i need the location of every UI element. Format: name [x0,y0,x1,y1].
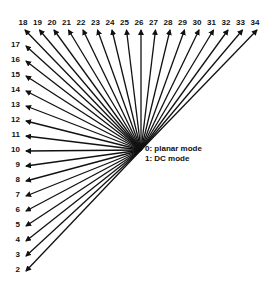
label-mode-25: 25 [120,18,129,27]
arrow-mode-18 [25,30,141,150]
label-mode-19: 19 [33,18,42,27]
label-mode-3: 3 [16,250,21,259]
label-mode-17: 17 [11,40,20,49]
arrow-mode-10 [26,150,141,151]
label-mode-12: 12 [11,115,20,124]
label-mode-30: 30 [193,18,202,27]
label-mode-9: 9 [16,160,21,169]
label-mode-20: 20 [48,18,57,27]
arrow-mode-34 [141,30,257,150]
label-mode-31: 31 [207,18,216,27]
label-mode-10: 10 [11,145,20,154]
arrow-mode-7 [26,150,141,196]
label-mode-22: 22 [77,18,86,27]
legend: 0: planar mode 1: DC mode [145,144,202,164]
label-mode-23: 23 [91,18,100,27]
label-mode-14: 14 [11,85,20,94]
label-mode-27: 27 [149,18,158,27]
arrow-mode-30 [141,30,199,150]
label-mode-24: 24 [106,18,115,27]
angular-modes-diagram: 1819202122232425262728293031323334171615… [0,0,275,288]
arrow-mode-5 [26,150,141,226]
arrow-mode-33 [141,30,243,150]
label-mode-5: 5 [16,220,21,229]
label-mode-6: 6 [16,205,21,214]
label-mode-28: 28 [164,18,173,27]
arrow-mode-16 [26,61,141,150]
label-mode-8: 8 [16,175,21,184]
legend-planar: 0: planar mode [145,144,202,154]
label-mode-18: 18 [19,18,28,27]
label-mode-11: 11 [12,130,21,139]
arrow-mode-32 [141,30,228,150]
arrow-mode-6 [26,150,141,211]
arrow-mode-17 [26,46,141,150]
label-mode-33: 33 [236,18,245,27]
label-mode-4: 4 [16,235,21,244]
label-mode-32: 32 [222,18,231,27]
legend-dc: 1: DC mode [145,154,202,164]
label-mode-34: 34 [251,18,260,27]
arrow-mode-31 [141,30,214,150]
arrow-mode-19 [40,30,142,150]
label-mode-16: 16 [11,55,20,64]
label-mode-2: 2 [16,265,21,274]
label-mode-13: 13 [11,100,20,109]
label-mode-7: 7 [16,190,21,199]
label-mode-29: 29 [178,18,187,27]
label-mode-26: 26 [135,18,144,27]
label-mode-21: 21 [62,18,71,27]
label-mode-15: 15 [11,70,20,79]
arrow-mode-2 [26,150,141,271]
mode-arrows [25,30,257,271]
